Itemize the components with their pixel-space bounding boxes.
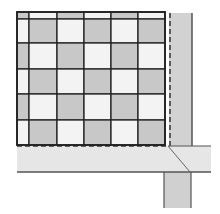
tile — [17, 120, 29, 145]
tile — [29, 12, 57, 19]
tile — [84, 120, 111, 145]
tile — [138, 94, 165, 120]
tile — [84, 94, 111, 120]
tile — [29, 19, 57, 43]
tile — [17, 43, 29, 69]
tile — [111, 120, 138, 145]
tile — [29, 43, 57, 69]
tile — [57, 69, 84, 94]
tile — [57, 120, 84, 145]
tile — [17, 94, 29, 120]
tile-layout-diagram — [0, 0, 220, 214]
tile — [29, 120, 57, 145]
tile — [29, 94, 57, 120]
tile — [111, 94, 138, 120]
tile — [138, 43, 165, 69]
tile — [84, 12, 111, 19]
tile — [138, 12, 165, 19]
checkerboard-tiles — [17, 12, 165, 145]
tile — [84, 69, 111, 94]
tile — [84, 19, 111, 43]
tile — [57, 12, 84, 19]
tile — [57, 43, 84, 69]
tile — [111, 12, 138, 19]
tile — [84, 43, 111, 69]
lower-strip — [164, 172, 191, 208]
right-strip — [169, 13, 192, 146]
tile — [111, 19, 138, 43]
tile — [111, 43, 138, 69]
tile — [17, 19, 29, 43]
tile — [57, 19, 84, 43]
tile — [57, 94, 84, 120]
tile — [29, 69, 57, 94]
tile — [111, 69, 138, 94]
tile — [17, 12, 29, 19]
tile — [138, 120, 165, 145]
tile — [138, 19, 165, 43]
tile — [138, 69, 165, 94]
tile — [17, 69, 29, 94]
